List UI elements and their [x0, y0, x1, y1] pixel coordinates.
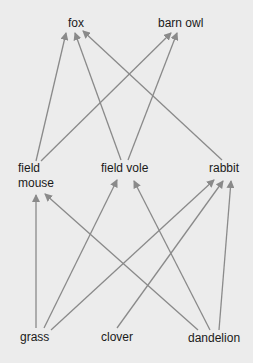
- arrow-dandelion-to-rabbit: [219, 181, 231, 330]
- arrow-field-mouse-to-fox: [36, 33, 66, 161]
- node-fox: fox: [68, 16, 84, 31]
- node-field-mouse-line2: mouse: [18, 176, 54, 191]
- arrow-field-vole-to-fox: [75, 33, 121, 160]
- node-rabbit: rabbit: [209, 161, 239, 176]
- node-dandelion: dandelion: [188, 331, 240, 346]
- node-field-vole: field vole: [101, 161, 148, 176]
- node-clover: clover: [101, 330, 133, 345]
- node-grass: grass: [20, 330, 49, 345]
- food-web-diagram: fox barn owl field mouse field vole rabb…: [0, 0, 253, 363]
- node-field-mouse-line1: field: [18, 161, 54, 176]
- node-barn-owl: barn owl: [158, 16, 203, 31]
- node-field-mouse: field mouse: [18, 161, 54, 191]
